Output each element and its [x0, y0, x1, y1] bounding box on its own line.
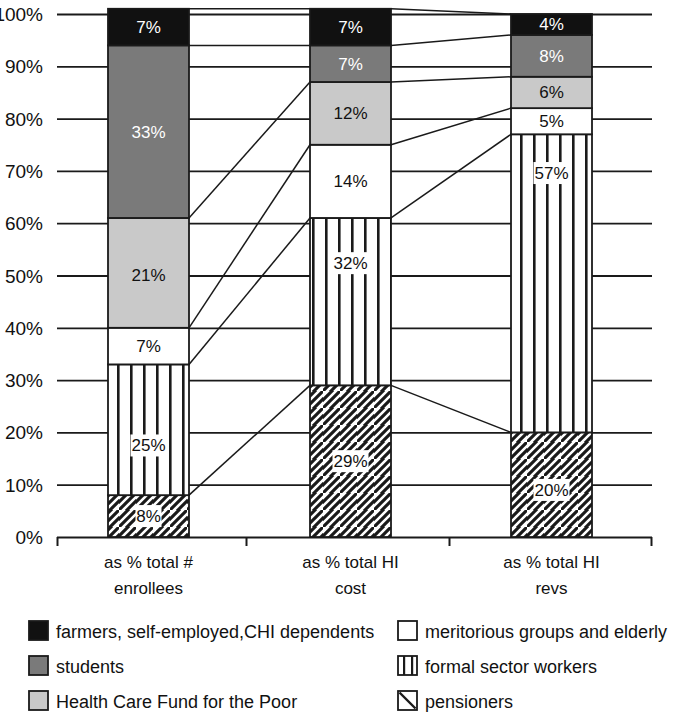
segment-label-group-1-2: 14%: [333, 172, 367, 191]
category-label-0-line1: enrollees: [114, 579, 183, 598]
connector-0-1: [189, 218, 310, 364]
bar-segment-1-1: [310, 218, 391, 385]
segment-value-label-1-2: 14%: [333, 172, 367, 191]
y-tick-label-50: 50%: [5, 266, 43, 287]
chart-svg: 100%90%80%70%60%50%40%30%20%10%0%8%25%7%…: [0, 0, 674, 712]
connector-1-4: [391, 35, 511, 45]
stacked-bar-chart: 100%90%80%70%60%50%40%30%20%10%0%8%25%7%…: [0, 0, 674, 712]
segment-label-group-2-5: 4%: [539, 15, 564, 34]
legend: farmers, self-employed,CHI dependentsstu…: [29, 621, 667, 712]
white-solid-swatch-box: [398, 621, 417, 640]
segment-label-group-2-2: 5%: [539, 112, 564, 131]
legend-item-left_column-2: Health Care Fund for the Poor: [29, 691, 297, 712]
legend-item-right_column-1: formal sector workers: [398, 656, 597, 677]
segment-label-group-0-5: 7%: [136, 18, 161, 37]
y-tick-label-10: 10%: [5, 475, 43, 496]
y-axis-tick-labels: 100%90%80%70%60%50%40%30%20%10%0%: [0, 4, 43, 548]
category-label-0-line0: as % total #: [104, 553, 193, 572]
y-tick-label-70: 70%: [5, 161, 43, 182]
legend-item-right_column-2: pensioners: [398, 691, 513, 712]
legend-label-left_column-0: farmers, self-employed,CHI dependents: [56, 622, 374, 642]
light-gray-solid-swatch: [29, 691, 48, 710]
connector-1-3: [391, 77, 511, 82]
y-tick-label-80: 80%: [5, 109, 43, 130]
bar-segment-0-1: [108, 364, 189, 495]
legend-item-left_column-1: students: [29, 656, 124, 677]
segment-value-label-1-3: 12%: [333, 104, 367, 123]
diagonal-line-swatch: [398, 691, 417, 710]
connector-1-1: [391, 134, 511, 218]
segment-label-group-0-1: 25%: [131, 434, 167, 456]
segment-value-label-0-5: 7%: [136, 18, 161, 37]
y-tick-label-30: 30%: [5, 370, 43, 391]
segment-label-group-1-4: 7%: [338, 55, 363, 74]
segment-label-group-0-2: 7%: [136, 337, 161, 356]
segment-value-label-0-3: 21%: [131, 266, 165, 285]
category-label-1-line0: as % total HI: [302, 553, 398, 572]
category-label-2-line0: as % total HI: [503, 553, 599, 572]
light-gray-solid-swatch-box: [29, 691, 48, 710]
y-tick-label-40: 40%: [5, 318, 43, 339]
segment-value-label-0-2: 7%: [136, 337, 161, 356]
segment-value-label-0-0: 8%: [136, 507, 161, 526]
segment-value-label-1-4: 7%: [338, 55, 363, 74]
segment-label-group-1-1: 32%: [333, 252, 369, 274]
segment-value-label-1-1: 32%: [333, 254, 367, 273]
segment-value-label-2-3: 6%: [539, 83, 564, 102]
segment-label-group-0-4: 33%: [131, 123, 165, 142]
white-solid-swatch: [398, 621, 417, 640]
segment-value-label-2-0: 20%: [534, 481, 568, 500]
dark-gray-solid-swatch: [29, 656, 48, 675]
x-axis-category-labels: as % total #enrolleesas % total HIcostas…: [104, 553, 600, 598]
segment-label-group-2-0: 20%: [534, 479, 570, 501]
legend-label-right_column-1: formal sector workers: [425, 657, 597, 677]
segment-value-label-1-5: 7%: [338, 18, 363, 37]
legend-label-left_column-2: Health Care Fund for the Poor: [56, 692, 297, 712]
legend-item-left_column-0: farmers, self-employed,CHI dependents: [29, 621, 374, 642]
y-tick-label-20: 20%: [5, 422, 43, 443]
legend-label-left_column-1: students: [56, 657, 124, 677]
y-tick-label-90: 90%: [5, 56, 43, 77]
vertical-lines-swatch-box: [398, 656, 417, 675]
connector-1-0: [391, 385, 511, 432]
segment-value-label-0-1: 25%: [131, 436, 165, 455]
segment-value-label-2-5: 4%: [539, 15, 564, 34]
dark-gray-solid-swatch-box: [29, 656, 48, 675]
category-label-2-line1: revs: [535, 579, 567, 598]
segment-value-label-2-1: 57%: [534, 164, 568, 183]
connector-1-2: [391, 108, 511, 145]
segment-label-group-0-3: 21%: [131, 266, 165, 285]
connector-0-0: [189, 385, 310, 495]
segment-value-label-1-0: 29%: [333, 452, 367, 471]
connector-0-3: [189, 82, 310, 218]
segment-value-label-2-2: 5%: [539, 112, 564, 131]
segment-label-group-2-1: 57%: [534, 162, 570, 184]
connector-1-5: [391, 9, 511, 14]
vertical-lines-swatch: [398, 656, 417, 675]
segment-value-label-2-4: 8%: [539, 47, 564, 66]
y-tick-label-0: 0%: [16, 527, 44, 548]
segment-label-group-1-3: 12%: [333, 104, 367, 123]
y-tick-label-100: 100%: [0, 4, 43, 25]
legend-label-right_column-2: pensioners: [425, 692, 513, 712]
segment-label-group-1-0: 29%: [333, 450, 369, 472]
black-solid-swatch-box: [29, 621, 48, 640]
segment-label-group-2-3: 6%: [539, 83, 564, 102]
segment-label-group-2-4: 8%: [539, 47, 564, 66]
legend-label-right_column-0: meritorious groups and elderly: [425, 622, 667, 642]
segment-label-group-0-0: 8%: [136, 505, 162, 527]
segment-label-group-1-5: 7%: [338, 18, 363, 37]
legend-item-right_column-0: meritorious groups and elderly: [398, 621, 667, 642]
y-tick-label-60: 60%: [5, 213, 43, 234]
black-solid-swatch: [29, 621, 48, 640]
category-label-1-line1: cost: [335, 579, 366, 598]
segment-value-label-0-4: 33%: [131, 123, 165, 142]
